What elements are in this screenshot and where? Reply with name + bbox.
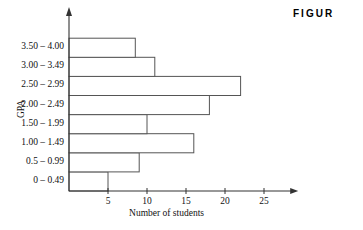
y-tick-label: 3.00 – 3.49: [0, 61, 64, 71]
y-tick-label: 1.00 – 1.49: [0, 138, 64, 148]
bar-1-00-1-49: [69, 134, 194, 153]
x-axis-arrow: [290, 188, 298, 194]
y-tick-label: 3.50 – 4.00: [0, 42, 64, 52]
x-tick-label: 10: [135, 196, 159, 206]
bar-1-50-1-99: [69, 115, 147, 134]
y-tick-label: 2.00 – 2.49: [0, 100, 64, 110]
x-tick-label: 25: [252, 196, 276, 206]
bar-3-00-3-49: [69, 57, 155, 76]
bar-2-50-2-99: [69, 76, 241, 95]
gpa-histogram-chart: 0 – 0.490.5 – 0.991.00 – 1.491.50 – 1.99…: [0, 0, 363, 230]
x-axis-label: Number of students: [69, 208, 264, 218]
y-tick-label: 0 – 0.49: [0, 176, 64, 186]
y-axis-label: GPA: [16, 79, 26, 139]
y-tick-label: 0.5 – 0.99: [0, 157, 64, 167]
bar-0-0-49: [69, 172, 108, 191]
bar-3-50-4-00: [69, 38, 135, 57]
x-tick-label: 15: [174, 196, 198, 206]
x-tick-label: 5: [96, 196, 120, 206]
y-tick-label: 1.50 – 1.99: [0, 119, 64, 129]
bar-2-00-2-49: [69, 96, 209, 115]
y-axis-arrow: [66, 7, 72, 16]
y-tick-label: 2.50 – 2.99: [0, 80, 64, 90]
bars-group: [69, 38, 241, 191]
bar-0-5-0-99: [69, 153, 139, 172]
x-tick-label: 20: [213, 196, 237, 206]
